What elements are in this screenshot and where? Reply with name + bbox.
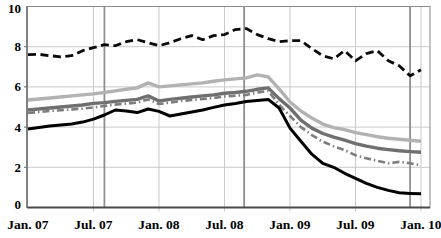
y-tick-label: 0 xyxy=(15,197,22,212)
y-tick-label: 4 xyxy=(15,120,22,135)
rate-chart: 0246810Jan. 07Jul. 07Jan. 08Jul. 08Jan. … xyxy=(0,0,441,238)
x-tick-label: Jul. 09 xyxy=(336,217,375,232)
x-tick-label: Jan. 08 xyxy=(138,217,180,232)
x-tick-label: Jul. 08 xyxy=(205,217,244,232)
y-tick-label: 10 xyxy=(8,1,21,16)
y-tick-label: 8 xyxy=(15,39,22,54)
x-tick-label: Jul. 07 xyxy=(74,217,113,232)
line-chart-canvas: 0246810Jan. 07Jul. 07Jan. 08Jul. 08Jan. … xyxy=(0,0,441,238)
x-tick-label: Jan. 10 xyxy=(400,217,441,232)
y-tick-label: 6 xyxy=(15,79,22,94)
x-tick-label: Jan. 09 xyxy=(269,217,311,232)
chart-background xyxy=(0,0,441,238)
y-tick-label: 2 xyxy=(15,160,22,175)
x-tick-label: Jan. 07 xyxy=(7,217,49,232)
